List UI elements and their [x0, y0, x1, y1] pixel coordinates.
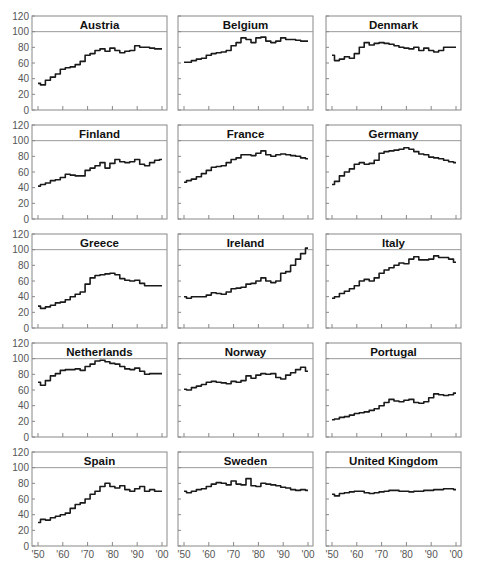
panel-title: France [227, 128, 265, 140]
x-tick-label: '60 [56, 549, 69, 560]
y-tick-label: 80 [18, 151, 30, 162]
y-tick-label: 120 [12, 120, 29, 131]
panel-title: Finland [79, 128, 120, 140]
panel-title: Norway [225, 346, 267, 358]
y-tick-label: 100 [12, 244, 29, 255]
y-tick-label: 120 [12, 447, 29, 458]
panel-norway: Norway [178, 343, 313, 437]
panel-title: Germany [369, 128, 419, 140]
panel-portugal: Portugal [326, 343, 461, 437]
y-tick-label: 60 [18, 58, 30, 69]
panel-spain: 020406080100120'50'60'70'80'90'00Spain [12, 447, 169, 561]
panel-title: Netherlands [66, 346, 132, 358]
y-tick-label: 60 [18, 167, 30, 178]
x-tick-label: '80 [252, 549, 265, 560]
y-tick-label: 0 [23, 323, 29, 334]
y-tick-label: 120 [12, 11, 29, 22]
x-tick-label: '50 [31, 549, 44, 560]
x-tick-label: '00 [155, 549, 168, 560]
panel-finland: 020406080100120Finland [12, 120, 167, 225]
y-tick-label: 40 [18, 400, 30, 411]
panel-title: Sweden [224, 455, 267, 467]
small-multiples-chart: 020406080100120AustriaBelgiumDenmark0204… [0, 0, 478, 566]
x-tick-label: '90 [277, 549, 290, 560]
y-tick-label: 40 [18, 509, 30, 520]
x-tick-label: '00 [449, 549, 462, 560]
panel-belgium: Belgium [178, 16, 313, 110]
x-tick-label: '70 [81, 549, 94, 560]
panel-denmark: Denmark [326, 16, 461, 110]
y-tick-label: 40 [18, 182, 30, 193]
y-tick-label: 60 [18, 494, 30, 505]
x-tick-label: '50 [325, 549, 338, 560]
y-tick-label: 80 [18, 478, 30, 489]
x-tick-label: '90 [425, 549, 438, 560]
panel-germany: Germany [326, 125, 461, 219]
y-tick-label: 0 [23, 214, 29, 225]
x-tick-label: '70 [375, 549, 388, 560]
x-tick-label: '70 [227, 549, 240, 560]
y-tick-label: 0 [23, 105, 29, 116]
y-tick-label: 100 [12, 462, 29, 473]
panel-title: Italy [382, 237, 406, 249]
y-tick-label: 100 [12, 26, 29, 37]
x-tick-label: '00 [301, 549, 314, 560]
panel-title: Greece [80, 237, 119, 249]
panel-ireland: Ireland [178, 234, 313, 328]
panel-united-kingdom: '50'60'70'80'90'00United Kingdom [325, 452, 462, 560]
y-tick-label: 20 [18, 89, 30, 100]
panel-title: Belgium [223, 19, 268, 31]
y-tick-label: 100 [12, 353, 29, 364]
y-tick-label: 100 [12, 135, 29, 146]
panel-greece: 020406080100120Greece [12, 229, 167, 334]
y-tick-label: 20 [18, 198, 30, 209]
panel-title: Ireland [227, 237, 265, 249]
panel-title: United Kingdom [349, 455, 438, 467]
panel-italy: Italy [326, 234, 461, 328]
x-tick-label: '80 [106, 549, 119, 560]
panel-france: France [178, 125, 313, 219]
y-tick-label: 0 [23, 432, 29, 443]
y-tick-label: 120 [12, 229, 29, 240]
panel-title: Denmark [369, 19, 419, 31]
panel-title: Portugal [370, 346, 417, 358]
y-tick-label: 40 [18, 73, 30, 84]
y-tick-label: 0 [23, 541, 29, 552]
x-tick-label: '60 [350, 549, 363, 560]
y-tick-label: 60 [18, 385, 30, 396]
panel-netherlands: 020406080100120Netherlands [12, 338, 167, 443]
x-tick-label: '80 [400, 549, 413, 560]
y-tick-label: 20 [18, 525, 30, 536]
panel-austria: 020406080100120Austria [12, 11, 167, 116]
y-tick-label: 80 [18, 369, 30, 380]
x-tick-label: '50 [177, 549, 190, 560]
y-tick-label: 80 [18, 42, 30, 53]
x-tick-label: '60 [202, 549, 215, 560]
y-tick-label: 40 [18, 291, 30, 302]
panel-sweden: '50'60'70'80'90'00Sweden [177, 452, 314, 560]
x-tick-label: '90 [131, 549, 144, 560]
y-tick-label: 20 [18, 307, 30, 318]
panel-title: Spain [84, 455, 115, 467]
y-tick-label: 120 [12, 338, 29, 349]
y-tick-label: 20 [18, 416, 30, 427]
y-tick-label: 60 [18, 276, 30, 287]
panel-title: Austria [80, 19, 120, 31]
y-tick-label: 80 [18, 260, 30, 271]
